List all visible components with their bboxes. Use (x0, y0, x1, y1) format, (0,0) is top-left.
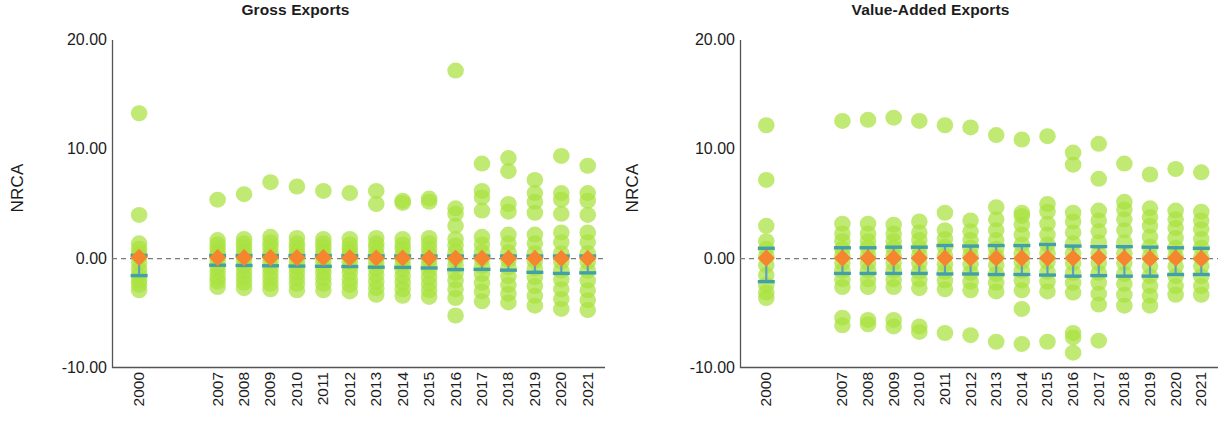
data-point (1090, 171, 1107, 187)
data-point (937, 117, 954, 133)
x-tick-slot: 2017 (482, 368, 483, 369)
data-point (758, 172, 775, 188)
data-point (1116, 298, 1133, 314)
x-tick-slot: 2011 (323, 368, 324, 369)
data-point (1090, 333, 1107, 349)
data-point (1116, 156, 1133, 172)
panel-value-added-exports: Value-Added Exports NRCA 20.0010.000.00-… (615, 0, 1230, 434)
data-point (1090, 136, 1107, 152)
data-point (937, 325, 954, 341)
x-tick-slot: 2010 (297, 368, 298, 369)
panel-gross-exports: Gross Exports NRCA 20.0010.000.00-10.002… (0, 0, 615, 434)
x-tick-slot: 2011 (945, 368, 946, 369)
data-point (553, 192, 570, 208)
x-tick-slot: 2007 (842, 368, 843, 369)
data-point (860, 316, 877, 332)
data-point (527, 298, 544, 314)
x-tick-slot: 2014 (1022, 368, 1023, 369)
x-tick-label: 2007 (833, 372, 851, 406)
x-tick-label: 2011 (314, 372, 332, 405)
data-point (474, 293, 491, 309)
x-tick-slot: 2020 (561, 368, 562, 369)
data-point (911, 324, 928, 340)
data-point (911, 280, 928, 296)
y-tick-label: 0.00 (76, 250, 107, 268)
data-point (236, 280, 253, 296)
data-point (1065, 285, 1082, 301)
x-tick-slot: 2008 (244, 368, 245, 369)
x-tick-label: 2009 (885, 372, 903, 406)
data-point (860, 112, 877, 128)
chart-canvas-left (112, 40, 605, 368)
figure-root: Gross Exports NRCA 20.0010.000.00-10.002… (0, 0, 1230, 434)
data-point (988, 127, 1005, 143)
data-point (1065, 345, 1082, 361)
data-point (447, 290, 464, 306)
x-tick-label: 2021 (1192, 372, 1210, 406)
x-tick-slot: 2016 (456, 368, 457, 369)
x-tick-slot: 2015 (1047, 368, 1048, 369)
data-point (1014, 282, 1031, 298)
panel-title-right: Value-Added Exports (623, 1, 1230, 19)
plot-area-left: 20.0010.000.00-10.0020002007200820092010… (112, 40, 605, 368)
data-point (289, 179, 306, 195)
x-tick-label: 2011 (936, 372, 954, 405)
data-point (579, 302, 596, 318)
x-tick-label: 2020 (1167, 372, 1185, 406)
y-tick-label: 10.00 (67, 140, 107, 158)
data-point (447, 63, 464, 79)
x-tick-label: 2000 (130, 372, 148, 406)
x-tick-label: 2008 (859, 372, 877, 406)
x-tick-label: 2007 (209, 372, 227, 406)
data-point (834, 113, 851, 129)
data-point (553, 148, 570, 164)
x-tick-slot: 2015 (429, 368, 430, 369)
x-tick-slot: 2007 (218, 368, 219, 369)
x-tick-label: 2016 (447, 372, 465, 406)
data-point (1193, 287, 1210, 303)
x-tick-slot: 2014 (403, 368, 404, 369)
x-tick-label: 2010 (288, 372, 306, 406)
y-axis-label-left: NRCA (8, 148, 28, 228)
x-tick-slot: 2019 (1150, 368, 1151, 369)
data-point (937, 205, 954, 221)
x-tick-label: 2018 (1115, 372, 1133, 406)
x-tick-slot: 2009 (270, 368, 271, 369)
data-point (758, 218, 775, 234)
x-tick-slot: 2020 (1176, 368, 1177, 369)
data-point (988, 334, 1005, 350)
data-point (1167, 287, 1184, 303)
data-point (1039, 334, 1056, 350)
x-tick-label: 2019 (1141, 372, 1159, 406)
data-point (911, 113, 928, 129)
data-point (209, 192, 226, 208)
data-point (834, 317, 851, 333)
x-tick-slot: 2013 (996, 368, 997, 369)
plot-area-right: 20.0010.000.00-10.0020002007200820092010… (740, 40, 1218, 368)
data-point (1193, 164, 1210, 180)
data-point (500, 294, 517, 310)
x-tick-label: 2012 (341, 372, 359, 406)
y-tick-label: -10.00 (690, 359, 735, 377)
x-tick-slot: 2000 (139, 368, 140, 369)
panel-title-left: Gross Exports (0, 1, 603, 19)
data-point (474, 156, 491, 172)
y-tick-label: 10.00 (695, 140, 735, 158)
data-point (860, 279, 877, 295)
data-point (315, 282, 332, 298)
x-tick-label: 2016 (1064, 372, 1082, 406)
x-tick-label: 2017 (473, 372, 491, 406)
x-tick-slot: 2010 (919, 368, 920, 369)
data-point (131, 282, 148, 298)
x-tick-label: 2000 (757, 372, 775, 406)
chart-canvas-right (740, 40, 1218, 368)
x-tick-label: 2015 (1038, 372, 1056, 406)
x-tick-label: 2014 (394, 372, 412, 406)
data-point (937, 281, 954, 297)
data-point (368, 287, 385, 303)
data-point (834, 279, 851, 295)
data-point (1039, 283, 1056, 299)
data-point (342, 283, 359, 299)
data-point (579, 193, 596, 209)
x-tick-slot: 2019 (535, 368, 536, 369)
